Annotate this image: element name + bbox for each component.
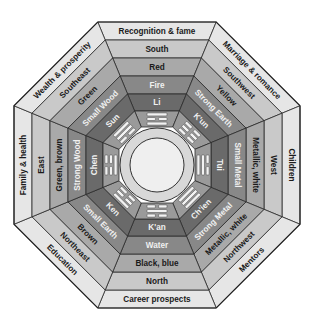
east-aspiration-label: Family & health bbox=[19, 135, 28, 196]
east-direction-label: East bbox=[37, 156, 46, 174]
center-hub bbox=[120, 128, 194, 202]
north-direction-label: North bbox=[146, 277, 168, 286]
west-trigram-name-label: Tui bbox=[215, 159, 224, 171]
bagua-diagram: Recognition & fameSouthRedFireLiMarriage… bbox=[0, 0, 314, 330]
south-direction-label: South bbox=[145, 45, 168, 54]
east-trigram-name-label: Chen bbox=[90, 155, 99, 175]
north-aspiration-label: Career prospects bbox=[123, 295, 191, 304]
north-color-label: Black, blue bbox=[135, 259, 179, 268]
hub-inner-disc bbox=[130, 138, 184, 192]
north-trigram-name-label: K'an bbox=[148, 223, 165, 232]
south-aspiration-label: Recognition & fame bbox=[119, 27, 196, 36]
south-color-label: Red bbox=[149, 63, 164, 72]
west-color-label: Metallic, white bbox=[251, 137, 260, 193]
west-aspiration-label: Children bbox=[287, 148, 296, 181]
south-element-label: Fire bbox=[149, 81, 164, 90]
east-color-label: Green, brown bbox=[55, 139, 64, 192]
south-trigram-name-label: Li bbox=[153, 98, 160, 107]
north-element-label: Water bbox=[146, 241, 169, 250]
east-element-label: Strong Wood bbox=[73, 139, 82, 190]
west-direction-label: West bbox=[269, 155, 278, 175]
west-element-label: Small Metal bbox=[233, 142, 242, 187]
